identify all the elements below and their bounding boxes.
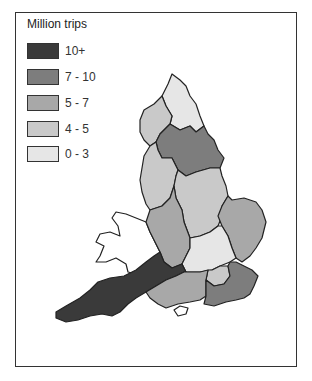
isle-of-wight — [174, 306, 188, 316]
england-region-map — [0, 0, 312, 381]
